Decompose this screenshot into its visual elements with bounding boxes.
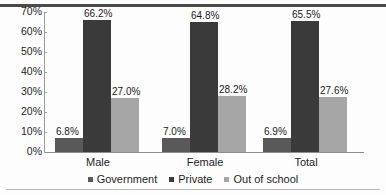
bar-value-label: 6.9% [264,126,287,137]
bar-private-male [83,20,111,152]
y-axis-tick-label: 10% [2,126,42,137]
y-axis-tick-label: 40% [2,66,42,77]
plot-area: 6.8%66.2%27.0%7.0%64.8%28.2%6.9%65.5%27.… [45,12,364,152]
chart-legend: GovernmentPrivateOut of school [0,173,386,185]
x-axis-line [44,152,364,153]
bar-value-label: 6.8% [56,126,79,137]
bar-private-female [190,22,218,152]
bar-out-of-school-female [218,96,246,152]
x-axis-label-female: Female [162,156,248,169]
y-axis-tick-labels: 70%60%50%40%30%20%10%0% [0,0,42,195]
y-axis-tick-mark [44,32,47,33]
top-rule-divider [0,4,386,7]
x-axis-label-total: Total [263,156,349,169]
bar-value-label: 28.2% [219,84,247,95]
bar-private-total [291,21,319,152]
bar-government-male [55,138,83,152]
y-axis-tick-label: 50% [2,46,42,57]
bar-value-label: 7.0% [163,126,186,137]
legend-swatch-icon [169,177,174,182]
bar-group-male: 6.8%66.2%27.0% [55,12,141,152]
y-axis-tick-mark [44,92,47,93]
bar-chart-figure: 70%60%50%40%30%20%10%0% 6.8%66.2%27.0%7.… [0,0,386,195]
y-axis-tick-label: 60% [2,26,42,37]
bottom-rule-divider [6,189,380,190]
y-axis-tick-mark [44,52,47,53]
legend-label: Out of school [233,173,298,185]
legend-label: Government [97,173,158,185]
bar-out-of-school-total [319,97,347,152]
y-axis-tick-mark [44,112,47,113]
legend-label: Private [178,173,212,185]
bar-government-total [263,138,291,152]
y-axis-tick-mark [44,152,47,153]
bar-value-label: 27.6% [320,85,348,96]
bar-out-of-school-male [111,98,139,152]
y-axis-tick-label: 30% [2,86,42,97]
legend-item-out-of-school[interactable]: Out of school [224,173,298,185]
legend-item-government[interactable]: Government [88,173,158,185]
y-axis-tick-mark [44,132,47,133]
bar-value-label: 66.2% [84,8,112,19]
bar-group-female: 7.0%64.8%28.2% [162,12,248,152]
bar-value-label: 27.0% [112,86,140,97]
y-axis-tick-label: 70% [2,6,42,17]
bar-group-total: 6.9%65.5%27.6% [263,12,349,152]
x-axis-label-male: Male [55,156,141,169]
y-axis-tick-label: 0% [2,146,42,157]
y-axis-tick-mark [44,72,47,73]
legend-swatch-icon [88,177,93,182]
bar-value-label: 64.8% [191,10,219,21]
y-axis-tick-label: 20% [2,106,42,117]
legend-item-private[interactable]: Private [169,173,212,185]
bar-government-female [162,138,190,152]
y-axis-tick-mark [44,12,47,13]
legend-swatch-icon [224,177,229,182]
bar-value-label: 65.5% [292,9,320,20]
